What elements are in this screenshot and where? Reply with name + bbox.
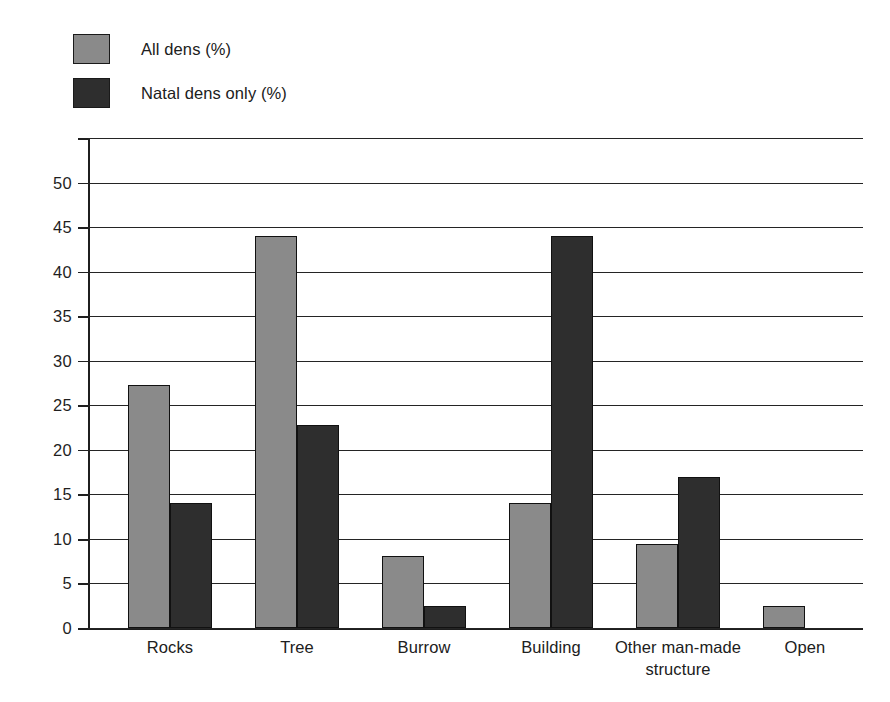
bar [678, 477, 720, 628]
gridline [88, 138, 863, 139]
gridline [88, 227, 863, 228]
bar [128, 385, 170, 628]
legend-swatch-natal-dens [73, 78, 110, 108]
gridline [88, 494, 863, 495]
bar-chart: All dens (%) Natal dens only (%) 0510152… [0, 0, 890, 702]
y-axis-label: 5 [26, 574, 72, 593]
x-axis-label-line: structure [588, 658, 768, 680]
y-axis-label: 30 [26, 351, 72, 370]
bar [509, 503, 551, 628]
chart-legend: All dens (%) Natal dens only (%) [73, 27, 473, 115]
y-axis-label: 0 [26, 619, 72, 638]
bar [424, 606, 466, 628]
gridline [88, 450, 863, 451]
gridline [88, 405, 863, 406]
legend-item-natal-dens: Natal dens only (%) [73, 71, 473, 115]
gridline [88, 272, 863, 273]
x-axis-label-line: Open [715, 636, 890, 658]
bar [763, 606, 805, 628]
gridline [88, 183, 863, 184]
bar [255, 236, 297, 628]
y-axis-label: 20 [26, 440, 72, 459]
y-axis-label: 15 [26, 485, 72, 504]
y-axis-label: 10 [26, 529, 72, 548]
gridline [88, 361, 863, 362]
gridline [88, 316, 863, 317]
y-axis-label: 45 [26, 218, 72, 237]
x-axis-label: Open [715, 636, 890, 658]
y-axis-labels: 05101520253035404550 [18, 0, 72, 702]
bar [636, 544, 678, 628]
legend-label-natal-dens: Natal dens only (%) [141, 84, 287, 103]
y-axis-label: 50 [26, 173, 72, 192]
bar [382, 556, 424, 628]
bar [297, 425, 339, 628]
legend-item-all-dens: All dens (%) [73, 27, 473, 71]
bar [170, 503, 212, 628]
y-axis-label: 25 [26, 396, 72, 415]
plot-area [88, 138, 863, 628]
y-axis-label: 35 [26, 307, 72, 326]
gridline [88, 628, 863, 629]
legend-swatch-all-dens [73, 34, 110, 64]
x-axis-labels: RocksTreeBurrowBuildingOther man-madestr… [88, 636, 878, 698]
legend-label-all-dens: All dens (%) [141, 40, 231, 59]
bar [551, 236, 593, 628]
y-axis-label: 40 [26, 262, 72, 281]
